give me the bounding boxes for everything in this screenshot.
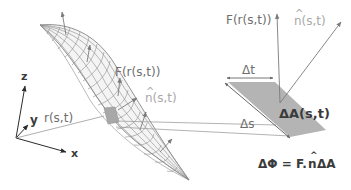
delta-t-label: Δt xyxy=(242,63,255,77)
x-axis xyxy=(16,138,66,152)
area-element-label: ΔA(s,t) xyxy=(279,106,330,121)
z-axis-label: z xyxy=(21,70,27,83)
position-vector-label: r(s,t) xyxy=(44,111,73,125)
surface-field-label: F(r(s,t)) xyxy=(115,65,160,79)
flux-formula-right: ΔA xyxy=(317,157,336,171)
surface-flux-diagram: z y x r(s,t) F(r(s,t)) ^ n(s,t) Δt Δs F(… xyxy=(0,0,351,190)
y-axis-label: y xyxy=(30,113,38,127)
flux-formula-n: n xyxy=(308,157,317,171)
patch-normal-label: n(s,t) xyxy=(294,14,326,28)
patch-field-label: F(r(s,t)) xyxy=(226,13,271,27)
surface-normal-label: n(s,t) xyxy=(145,91,177,105)
normal-vector xyxy=(280,22,341,103)
delta-s-label: Δs xyxy=(240,117,254,131)
x-axis-label: x xyxy=(71,147,78,160)
flux-formula: ΔΦ = F. ^ n ΔA xyxy=(258,150,336,171)
flux-formula-left: ΔΦ = F. xyxy=(258,157,307,171)
